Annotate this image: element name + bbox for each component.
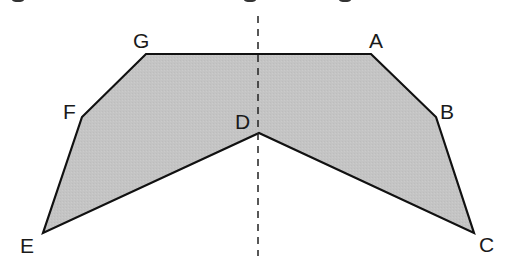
polygon-abcdefg: [43, 54, 474, 233]
vertex-label-b: B: [440, 100, 454, 123]
vertex-label-g: G: [133, 29, 149, 52]
vertex-label-a: A: [369, 29, 383, 52]
vertex-label-d: D: [235, 110, 250, 133]
vertex-label-c: C: [479, 233, 494, 256]
vertex-label-f: F: [63, 100, 76, 123]
symmetry-diagram: A B C D E F G: [0, 0, 509, 275]
cropped-text-fragments: [12, 0, 351, 2]
vertex-label-e: E: [20, 234, 34, 257]
